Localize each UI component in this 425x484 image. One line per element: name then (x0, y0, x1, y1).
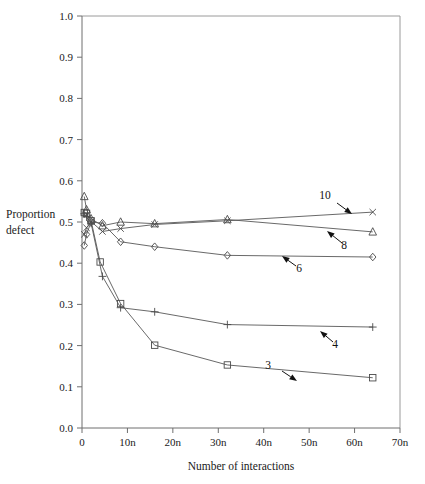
annotation-arrow-shaft-10 (337, 203, 346, 210)
y-axis-title-line2: defect (6, 224, 35, 236)
x-tick-label: 30n (210, 436, 227, 448)
series-line-3 (84, 213, 372, 378)
annotation-label-10: 10 (319, 189, 331, 201)
x-tick-label: 60n (346, 436, 363, 448)
annotation-label-8: 8 (341, 239, 347, 251)
annotation-10: 10 (319, 189, 352, 214)
annotation-arrow-shaft-6 (288, 260, 296, 266)
annotation-label-4: 4 (332, 338, 338, 350)
x-axis-ticks: 010n20n30n40n50n60n70n (79, 428, 409, 448)
series-line-8 (84, 196, 372, 231)
y-tick-label: 0.6 (59, 175, 73, 187)
y-tick-label: 0.4 (59, 257, 73, 269)
x-tick-label: 20n (165, 436, 182, 448)
annotation-arrow-head-8 (327, 231, 335, 238)
y-tick-label: 0.9 (59, 51, 73, 63)
y-tick-label: 0.5 (59, 216, 73, 228)
x-tick-label: 50n (301, 436, 318, 448)
annotation-arrow-head-3 (289, 374, 297, 381)
annotation-label-3: 3 (265, 359, 271, 371)
annotation-4: 4 (320, 331, 338, 350)
y-tick-label: 0.1 (59, 381, 73, 393)
annotation-label-6: 6 (296, 262, 302, 274)
y-tick-label: 0.8 (59, 92, 73, 104)
x-tick-label: 70n (392, 436, 409, 448)
y-tick-label: 0.0 (59, 422, 73, 434)
y-tick-label: 0.7 (59, 134, 73, 146)
annotation-6: 6 (282, 256, 302, 274)
x-tick-label: 0 (79, 436, 85, 448)
y-tick-label: 0.3 (59, 298, 73, 310)
series-layer (80, 192, 376, 381)
annotation-arrow-shaft-3 (282, 371, 291, 377)
series-8 (80, 192, 376, 235)
y-tick-label: 1.0 (59, 10, 73, 22)
x-tick-label: 10n (119, 436, 136, 448)
y-tick-label: 0.2 (59, 340, 73, 352)
series-line-10 (84, 212, 372, 234)
chart-figure: 0.00.10.20.30.40.50.60.70.80.91.0 010n20… (0, 0, 425, 484)
y-axis-title-line1: Proportion (6, 208, 55, 221)
annotation-arrow-head-6 (282, 256, 290, 263)
series-marker-8 (117, 218, 125, 225)
x-axis-title: Number of interactions (188, 460, 295, 472)
series-marker-8 (224, 215, 232, 222)
series-line-6 (84, 222, 372, 257)
series-line-4 (84, 214, 372, 327)
annotation-8: 8 (327, 231, 347, 251)
chart-svg: 0.00.10.20.30.40.50.60.70.80.91.0 010n20… (0, 0, 425, 484)
series-6 (81, 218, 376, 261)
y-axis-ticks: 0.00.10.20.30.40.50.60.70.80.91.0 (59, 10, 82, 434)
annotation-arrow-head-10 (344, 207, 352, 214)
x-tick-label: 40n (255, 436, 272, 448)
